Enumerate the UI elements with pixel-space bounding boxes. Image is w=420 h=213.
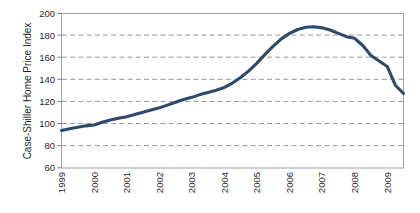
x-tick-label-2009: 2009: [382, 172, 393, 193]
y-tick-label-120: 120: [39, 96, 55, 107]
x-tick-label-2005: 2005: [251, 172, 262, 193]
x-tick-label-2004: 2004: [219, 172, 230, 193]
y-tick-label-80: 80: [44, 140, 55, 151]
y-axis-tick-labels: 200 180 160 140 120 100 80 60: [39, 8, 55, 173]
x-tick-label-2006: 2006: [284, 172, 295, 193]
y-tick-label-100: 100: [39, 118, 55, 129]
y-tick-label-160: 160: [39, 52, 55, 63]
y-tick-label-60: 60: [44, 162, 55, 173]
x-tick-label-2000: 2000: [89, 172, 100, 193]
x-axis-tick-labels: 1999 2000 2001 2002 2003 2004 2005 2006 …: [56, 172, 393, 193]
case-shiller-line-chart: Case-Shiller Home Price Index 200 18: [0, 0, 420, 213]
x-tick-label-2003: 2003: [186, 172, 197, 193]
y-axis-tickmarks: [58, 14, 62, 168]
x-tick-label-1999: 1999: [56, 172, 67, 193]
y-tick-label-140: 140: [39, 74, 55, 85]
x-tick-label-2008: 2008: [349, 172, 360, 193]
x-tick-label-2001: 2001: [121, 172, 132, 193]
x-tick-label-2007: 2007: [316, 172, 327, 193]
y-axis-title: Case-Shiller Home Price Index: [22, 23, 33, 160]
chart-figure: Case-Shiller Home Price Index 200 18: [0, 0, 420, 213]
y-tick-label-180: 180: [39, 30, 55, 41]
y-tick-label-200: 200: [39, 8, 55, 19]
x-tick-label-2002: 2002: [154, 172, 165, 193]
